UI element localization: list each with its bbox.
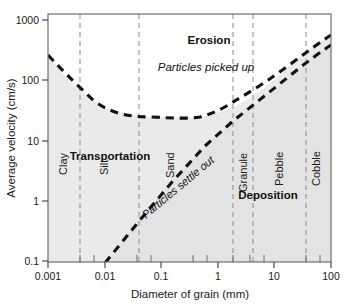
annotation-transportation: Transportation <box>70 150 151 162</box>
y-axis-ticks <box>42 20 48 261</box>
y-tick-label-0.1: 0.1 <box>24 255 39 267</box>
x-tick-label-1: 1 <box>215 270 221 282</box>
annotation-particles-picked-up: Particles picked up <box>158 61 255 73</box>
category-label-cobble: Cobble <box>310 151 322 186</box>
y-tick-label-10: 10 <box>27 135 39 147</box>
chart-canvas: 1000 100 10 1 0.1 Average velocity (cm/s… <box>0 0 349 304</box>
x-tick-label-0.001: 0.001 <box>35 270 61 282</box>
category-label-silt: Silt <box>98 160 110 175</box>
y-tick-label-100: 100 <box>21 74 39 86</box>
annotation-deposition: Deposition <box>238 189 297 201</box>
x-tick-label-10: 10 <box>268 270 280 282</box>
y-tick-label-1000: 1000 <box>16 14 40 26</box>
x-tick-label-100: 100 <box>322 270 340 282</box>
x-axis-title: Diameter of grain (mm) <box>131 288 249 300</box>
y-tick-label-1: 1 <box>33 195 39 207</box>
annotation-erosion: Erosion <box>188 34 231 46</box>
x-axis-ticks <box>48 262 331 268</box>
x-tick-label-0.1: 0.1 <box>154 270 169 282</box>
category-label-pebble: Pebble <box>273 152 285 186</box>
y-axis-title: Average velocity (cm/s) <box>5 78 17 197</box>
category-label-sand: Sand <box>164 152 176 178</box>
hjulstrom-curve-figure: 1000 100 10 1 0.1 Average velocity (cm/s… <box>0 0 349 304</box>
category-label-granule: Granule <box>237 153 249 192</box>
category-label-clay: Clay <box>57 152 69 175</box>
x-tick-label-0.01: 0.01 <box>95 270 116 282</box>
